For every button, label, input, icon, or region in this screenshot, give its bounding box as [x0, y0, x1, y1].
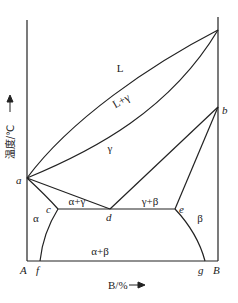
region-liquid-gamma: L+γ	[110, 91, 132, 110]
region-alpha-gamma: α+γ	[69, 195, 86, 207]
y-axis-arrow-icon	[7, 95, 13, 112]
point-e: e	[179, 203, 184, 215]
component-A: A	[19, 264, 27, 276]
alpha-solvus-upper	[27, 178, 58, 209]
region-alpha-beta: α+β	[91, 245, 109, 257]
y-axis-label: 温度/℃	[4, 125, 16, 160]
point-f: f	[36, 264, 41, 276]
alpha-solvus-lower	[40, 209, 58, 261]
point-b: b	[222, 104, 228, 116]
region-gamma-beta: γ+β	[141, 195, 159, 207]
point-c: c	[46, 203, 51, 215]
region-gamma: γ	[107, 142, 113, 154]
point-g: g	[198, 264, 204, 276]
point-d: d	[106, 211, 112, 223]
region-beta: β	[197, 212, 203, 224]
x-axis-arrow-icon	[129, 282, 145, 288]
b-d-line	[110, 107, 218, 209]
region-alpha: α	[33, 212, 39, 224]
point-a: a	[16, 174, 22, 186]
component-B: B	[213, 264, 220, 276]
x-axis-label: B/%	[108, 279, 128, 291]
beta-solvus-upper	[175, 107, 218, 209]
region-liquid: L	[117, 62, 124, 74]
phase-diagram: 温度/℃ L L+γ γ α+γ γ+β α β α+β a b c d e f…	[0, 0, 238, 303]
